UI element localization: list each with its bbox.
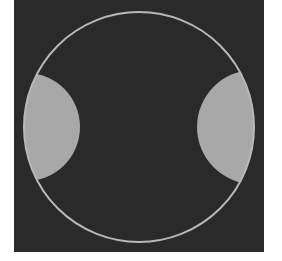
circle-lens-diagram — [0, 0, 282, 261]
